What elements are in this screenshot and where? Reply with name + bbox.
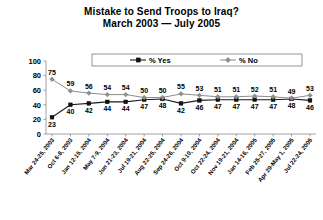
series-marker-no: [197, 93, 202, 98]
y-tick-label: 80: [33, 71, 41, 80]
y-tick-label: 60: [33, 86, 41, 95]
x-axis-ticks: Mar 24-25, 2003Oct 6-8, 2003Jan 12-15, 2…: [23, 134, 313, 183]
series-marker-no: [50, 77, 55, 82]
data-label-no: 50: [159, 87, 167, 94]
data-label-yes: 44: [103, 105, 111, 112]
series-marker-no: [68, 89, 73, 94]
legend-marker-yes: [136, 58, 140, 62]
data-label-yes: 47: [214, 103, 222, 110]
data-label-no: 53: [196, 85, 204, 92]
data-label-no: 56: [85, 83, 93, 90]
y-tick-label: 0: [37, 130, 41, 139]
legend-label-yes: % Yes: [149, 56, 171, 65]
series-marker-yes: [308, 99, 312, 103]
series-marker-no: [123, 92, 128, 97]
data-label-no: 50: [140, 87, 148, 94]
axes: [46, 61, 316, 134]
series-marker-yes: [179, 101, 183, 105]
y-tick-label: 40: [33, 101, 41, 110]
chart-plot: 020406080100 Mar 24-25, 2003Oct 6-8, 200…: [0, 0, 323, 220]
data-label-no: 53: [306, 85, 314, 92]
data-label-no: 52: [251, 86, 259, 93]
chart-legend: % Yes% No: [92, 54, 302, 66]
data-label-yes: 47: [269, 103, 277, 110]
data-label-no: 54: [122, 84, 130, 91]
data-label-yes: 44: [122, 105, 130, 112]
series-marker-yes: [124, 100, 128, 104]
series-marker-no: [308, 93, 313, 98]
data-label-no: 59: [67, 80, 75, 87]
series-marker-no: [179, 91, 184, 96]
data-label-yes: 42: [177, 107, 185, 114]
legend-box: [92, 54, 302, 66]
series-marker-yes: [69, 103, 73, 107]
data-label-yes: 46: [306, 104, 314, 111]
series-marker-no: [86, 91, 91, 96]
data-label-no: 54: [103, 84, 111, 91]
y-tick-label: 20: [33, 115, 41, 124]
series-marker-yes: [50, 115, 54, 119]
data-label-yes: 46: [196, 104, 204, 111]
data-label-no: 51: [214, 86, 222, 93]
data-label-yes: 40: [67, 108, 75, 115]
data-label-no: 55: [177, 83, 185, 90]
y-axis-ticks: 020406080100: [28, 57, 46, 139]
chart-container: Mistake to Send Troops to Iraq? March 20…: [0, 0, 323, 220]
data-label-yes: 42: [85, 107, 93, 114]
data-label-no: 51: [269, 86, 277, 93]
series-marker-yes: [87, 101, 91, 105]
data-label-no: 51: [232, 86, 240, 93]
data-label-no: 49: [288, 88, 296, 95]
data-label-yes: 48: [159, 102, 167, 109]
data-label-yes: 48: [288, 102, 296, 109]
data-label-yes: 23: [48, 121, 56, 128]
series-marker-yes: [105, 100, 109, 104]
series-marker-yes: [198, 99, 202, 103]
data-label-yes: 47: [251, 103, 259, 110]
data-label-yes: 47: [232, 103, 240, 110]
series-marker-no: [105, 92, 110, 97]
y-tick-label: 100: [28, 57, 41, 66]
data-label-no: 75: [48, 69, 56, 76]
data-label-yes: 47: [140, 103, 148, 110]
legend-label-no: % No: [239, 56, 258, 65]
